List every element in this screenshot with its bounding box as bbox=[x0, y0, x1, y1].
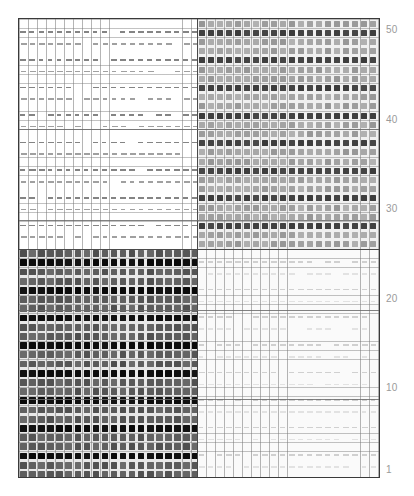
grid-cell bbox=[175, 153, 180, 155]
grid-cell bbox=[352, 94, 358, 100]
grid-cell bbox=[120, 388, 127, 395]
grid-cell bbox=[111, 388, 118, 395]
grid-cell bbox=[208, 372, 214, 374]
grid-cell bbox=[174, 225, 180, 227]
grid-cell bbox=[39, 31, 44, 33]
grid-cell bbox=[244, 232, 250, 238]
grid-cell bbox=[29, 370, 36, 377]
grid-cell bbox=[65, 333, 72, 340]
grid-cell bbox=[39, 87, 45, 89]
grid-cell bbox=[262, 411, 267, 413]
grid-cell bbox=[262, 289, 267, 291]
grid-cell bbox=[129, 370, 136, 377]
grid-cell bbox=[147, 370, 154, 377]
grid-cell bbox=[217, 85, 223, 91]
grid-cell bbox=[147, 462, 154, 469]
grid-cell bbox=[120, 287, 127, 294]
grid-cell bbox=[316, 232, 322, 238]
grid-cell bbox=[183, 333, 190, 340]
grid-cell bbox=[93, 153, 99, 155]
grid-cell bbox=[199, 39, 205, 45]
grid-cell bbox=[38, 416, 45, 423]
grid-cell bbox=[21, 71, 26, 73]
grid-cell bbox=[165, 278, 172, 285]
grid-cell bbox=[102, 397, 109, 404]
grid-cell bbox=[84, 397, 91, 404]
grid-cell bbox=[156, 425, 163, 432]
grid-cell bbox=[217, 214, 223, 220]
grid-cell bbox=[93, 333, 100, 340]
grid-cell bbox=[325, 232, 331, 238]
grid-cell bbox=[84, 305, 91, 312]
grid-cell bbox=[208, 149, 214, 155]
grid-cell bbox=[325, 241, 331, 247]
grid-cell bbox=[226, 168, 232, 174]
grid-cell bbox=[129, 225, 135, 227]
grid-cell bbox=[208, 241, 214, 247]
grid-cell bbox=[262, 454, 268, 456]
grid-cell bbox=[217, 76, 223, 82]
grid-cell bbox=[371, 372, 376, 374]
grid-cell bbox=[75, 379, 82, 386]
grid-cell bbox=[352, 140, 358, 146]
grid-cell bbox=[334, 48, 340, 54]
grid-cell bbox=[93, 250, 100, 257]
grid-cell bbox=[352, 427, 357, 429]
grid-cell bbox=[289, 30, 295, 36]
grid-cell bbox=[352, 241, 358, 247]
grid-cell bbox=[325, 214, 331, 220]
grid-cell bbox=[307, 168, 313, 174]
grid-cell bbox=[20, 197, 26, 199]
grid-cell bbox=[289, 21, 295, 27]
grid-cell bbox=[84, 379, 91, 386]
grid-cell bbox=[271, 57, 277, 63]
grid-cell bbox=[217, 301, 223, 303]
grid-cell bbox=[325, 30, 331, 36]
grid-cell bbox=[175, 236, 181, 238]
grid-cell bbox=[208, 30, 214, 36]
grid-cell bbox=[111, 453, 118, 460]
grid-cell bbox=[20, 361, 27, 368]
grid-cell bbox=[165, 462, 172, 469]
grid-cell bbox=[138, 416, 145, 423]
grid-cell bbox=[253, 344, 258, 346]
grid-cell bbox=[156, 87, 161, 89]
grid-cell bbox=[93, 471, 100, 478]
grid-cell bbox=[20, 169, 25, 171]
grid-cell bbox=[47, 361, 54, 368]
grid-cell bbox=[102, 425, 109, 432]
grid-cell bbox=[57, 59, 62, 61]
grid-cell bbox=[307, 301, 313, 303]
grid-cell bbox=[84, 225, 89, 227]
grid-cell bbox=[65, 453, 72, 460]
grid-cell bbox=[280, 384, 285, 386]
grid-cell bbox=[235, 232, 241, 238]
grid-cell bbox=[93, 236, 99, 238]
grid-cell bbox=[93, 425, 100, 432]
grid-cell bbox=[380, 195, 381, 201]
grid-cell bbox=[156, 333, 163, 340]
grid-cell bbox=[147, 434, 154, 441]
grid-cell bbox=[47, 443, 54, 450]
grid-cell bbox=[361, 94, 367, 100]
grid-cell bbox=[253, 159, 259, 165]
grid-cell bbox=[226, 21, 232, 27]
grid-cell bbox=[57, 197, 62, 199]
grid-cell bbox=[280, 186, 286, 192]
grid-cell bbox=[352, 131, 358, 137]
grid-cell bbox=[334, 30, 340, 36]
grid-cell bbox=[56, 434, 63, 441]
grid-cell bbox=[217, 140, 223, 146]
grid-cell bbox=[262, 85, 268, 91]
grid-cell bbox=[147, 31, 153, 33]
grid-cell bbox=[316, 103, 322, 109]
grid-cell bbox=[271, 223, 277, 229]
grid-cell bbox=[174, 259, 181, 266]
grid-cell bbox=[280, 289, 285, 291]
grid-cell bbox=[93, 43, 98, 45]
grid-cell bbox=[166, 236, 171, 238]
grid-cell bbox=[129, 269, 136, 276]
grid-cell bbox=[75, 315, 82, 322]
grid-cell bbox=[343, 356, 348, 358]
grid-cell bbox=[262, 94, 268, 100]
